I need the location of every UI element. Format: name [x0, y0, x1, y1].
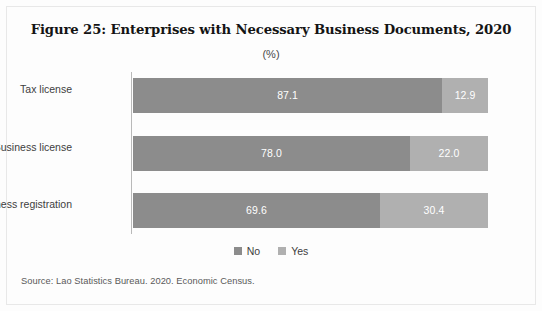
legend-item-yes[interactable]: Yes [278, 245, 308, 257]
chart-plot-area: Tax license 87.1 12.9 Business license 7… [131, 72, 488, 234]
bar-value-no: 87.1 [277, 90, 298, 101]
bar-segment-no[interactable]: 87.1 [133, 78, 442, 113]
table-row[interactable]: 69.6 30.4 [133, 193, 488, 228]
bar-value-no: 69.6 [246, 205, 267, 216]
bar-segment-no[interactable]: 69.6 [133, 193, 380, 228]
category-label-business-license: Business license [0, 141, 72, 153]
chart-subtitle-unit: (%) [0, 48, 542, 60]
category-label-business-registration: Business registration [0, 198, 72, 210]
bar-segment-yes[interactable]: 30.4 [380, 193, 488, 228]
table-row[interactable]: 78.0 22.0 [133, 136, 488, 171]
legend-item-no[interactable]: No [234, 245, 260, 257]
chart-legend: No Yes [0, 245, 542, 257]
table-row[interactable]: 87.1 12.9 [133, 78, 488, 113]
bar-segment-yes[interactable]: 12.9 [442, 78, 488, 113]
legend-label-no: No [247, 245, 260, 257]
bar-value-yes: 12.9 [455, 90, 476, 101]
category-axis-line [131, 72, 132, 234]
bar-value-yes: 30.4 [424, 205, 445, 216]
source-note: Source: Lao Statistics Bureau. 2020. Eco… [21, 276, 255, 286]
legend-label-yes: Yes [291, 245, 308, 257]
bar-segment-yes[interactable]: 22.0 [410, 136, 488, 171]
legend-swatch-icon [278, 247, 286, 255]
legend-swatch-icon [234, 247, 242, 255]
category-label-tax-license: Tax license [0, 83, 72, 95]
page-title: Figure 25: Enterprises with Necessary Bu… [0, 22, 542, 37]
bar-segment-no[interactable]: 78.0 [133, 136, 410, 171]
bar-value-yes: 22.0 [439, 148, 460, 159]
figure-page: Figure 25: Enterprises with Necessary Bu… [0, 0, 542, 311]
bar-value-no: 78.0 [261, 148, 282, 159]
